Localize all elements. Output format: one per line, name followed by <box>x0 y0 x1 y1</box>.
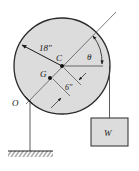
radius-label: 18″ <box>39 43 52 53</box>
center-point-c <box>60 64 64 68</box>
pivot-label: O <box>12 98 19 108</box>
offset-label: 6″ <box>65 83 73 92</box>
angle-label: θ <box>87 52 92 62</box>
mass-center-label: G <box>40 69 47 79</box>
pulley-diagram: 18″ C G O θ 6″ W <box>0 0 139 171</box>
ground-hatching <box>8 151 53 157</box>
mass-center-point-g <box>48 76 52 80</box>
center-label: C <box>56 53 63 63</box>
